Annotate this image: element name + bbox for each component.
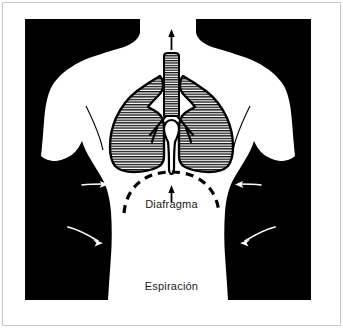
respiration-diagram: Diafragma Espiración	[0, 0, 343, 328]
trachea	[164, 53, 179, 116]
diaphragm-label: Diafragma	[145, 198, 198, 210]
phase-label: Espiración	[145, 280, 198, 292]
figure-root: Diafragma Espiración	[0, 0, 343, 328]
